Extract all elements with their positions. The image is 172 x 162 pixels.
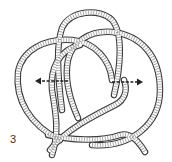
rope-knot-illustration [0,0,172,162]
step-number: 3 [10,133,16,145]
knot-diagram [0,0,172,162]
